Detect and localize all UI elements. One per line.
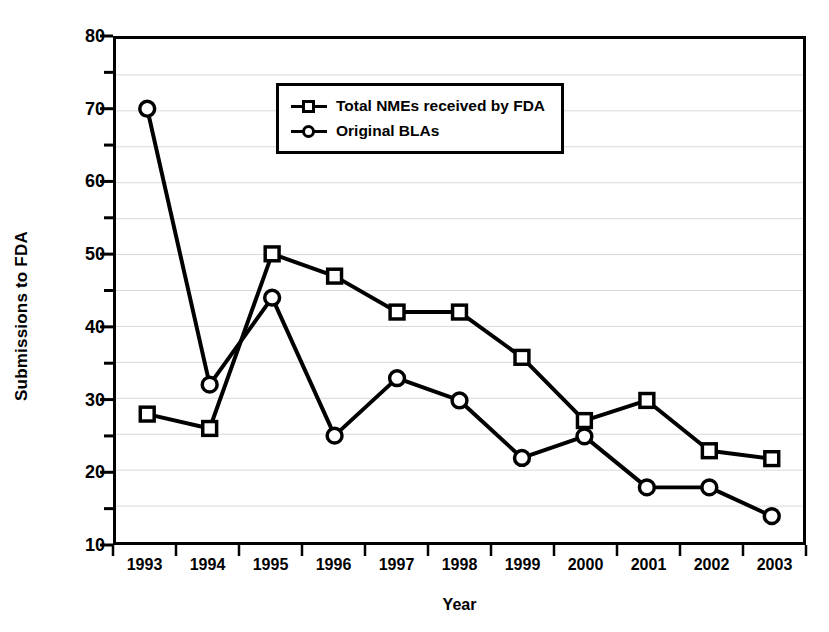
data-point-marker [390, 305, 404, 319]
x-tick-label: 1993 [127, 556, 163, 574]
data-point-marker [515, 451, 530, 466]
legend-label: Original BLAs [336, 122, 439, 140]
chart-legend: Total NMEs received by FDA Original BLAs [276, 83, 564, 154]
circle-marker-icon [291, 123, 327, 139]
x-axis-tick-labels: 1993199419951996199719981999200020012002… [113, 556, 806, 580]
y-tick-label: 10 [59, 535, 105, 556]
data-point-marker [765, 452, 779, 466]
data-point-marker [452, 393, 467, 408]
data-point-marker [515, 350, 529, 364]
x-tick-label: 1996 [316, 556, 352, 574]
data-point-marker [265, 247, 279, 261]
data-point-marker [265, 290, 280, 305]
data-point-marker [140, 407, 154, 421]
data-point-marker [453, 305, 467, 319]
data-point-marker [202, 377, 217, 392]
data-point-marker [640, 394, 654, 408]
x-tick-label: 1997 [379, 556, 415, 574]
data-point-marker [203, 422, 217, 436]
x-axis-title: Year [113, 596, 806, 614]
y-tick-label: 60 [59, 171, 105, 192]
legend-label: Total NMEs received by FDA [336, 97, 545, 115]
data-point-marker [577, 414, 591, 428]
y-tick-label: 30 [59, 389, 105, 410]
x-tick-label: 1995 [253, 556, 289, 574]
square-marker-icon [291, 98, 327, 114]
data-point-marker [140, 101, 155, 116]
legend-item-total-nmes[interactable]: Total NMEs received by FDA [291, 93, 545, 118]
data-point-marker [327, 428, 342, 443]
y-tick-label: 50 [59, 244, 105, 265]
data-point-marker [702, 444, 716, 458]
data-point-marker [390, 371, 405, 386]
x-tick-label: 1994 [190, 556, 226, 574]
y-tick-label: 70 [59, 98, 105, 119]
data-point-marker [577, 429, 592, 444]
y-tick-label: 80 [59, 26, 105, 47]
data-point-marker [328, 269, 342, 283]
x-tick-label: 1999 [505, 556, 541, 574]
data-point-marker [764, 509, 779, 524]
x-tick-label: 2001 [631, 556, 667, 574]
data-point-marker [702, 480, 717, 495]
data-point-marker [639, 480, 654, 495]
x-tick-label: 2003 [757, 556, 793, 574]
y-tick-label: 20 [59, 462, 105, 483]
series-line-0 [147, 254, 772, 459]
y-tick-label: 40 [59, 316, 105, 337]
x-tick-label: 2000 [568, 556, 604, 574]
chart-figure: Submissions to FDA 1020304050607080 1993… [0, 0, 829, 632]
y-axis-tick-labels: 1020304050607080 [47, 36, 105, 545]
y-axis-title: Submissions to FDA [0, 0, 44, 632]
x-tick-label: 2002 [694, 556, 730, 574]
legend-item-original-blas[interactable]: Original BLAs [291, 118, 545, 143]
x-tick-label: 1998 [442, 556, 478, 574]
